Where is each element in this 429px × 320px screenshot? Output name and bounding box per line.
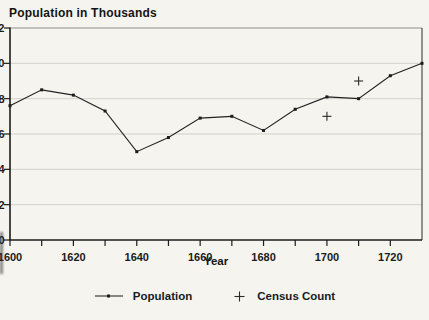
population-point bbox=[230, 115, 233, 118]
y-tick-label: 12 bbox=[0, 22, 5, 34]
y-tick-label: 2 bbox=[0, 199, 5, 211]
population-point bbox=[135, 150, 138, 153]
population-point bbox=[40, 88, 43, 91]
population-point bbox=[167, 136, 170, 139]
population-point bbox=[389, 74, 392, 77]
population-point bbox=[9, 104, 12, 107]
y-tick-label: 10 bbox=[0, 57, 5, 69]
legend-item-census-count: Census Count bbox=[234, 290, 335, 302]
y-tick-label: 8 bbox=[0, 93, 5, 105]
population-point bbox=[199, 117, 202, 120]
population-point bbox=[294, 108, 297, 111]
legend-label-population: Population bbox=[133, 290, 192, 302]
plot-area: 1600162016401660168017001720024681012 bbox=[0, 0, 429, 320]
population-line-icon bbox=[94, 292, 124, 300]
legend: Population Census Count bbox=[0, 290, 429, 302]
population-point bbox=[421, 62, 424, 65]
population-point bbox=[72, 94, 75, 97]
population-point bbox=[104, 110, 107, 113]
population-chart: Population in Thousands 1600162016401660… bbox=[0, 0, 429, 320]
y-tick-label: 6 bbox=[0, 128, 5, 140]
scan-edge-artifact bbox=[0, 232, 3, 274]
population-point bbox=[357, 97, 360, 100]
population-point bbox=[262, 129, 265, 132]
legend-label-census-count: Census Count bbox=[257, 290, 335, 302]
legend-item-population: Population bbox=[94, 290, 192, 302]
population-point bbox=[325, 95, 328, 98]
population-line bbox=[10, 63, 422, 151]
x-axis-label: Year bbox=[10, 255, 422, 267]
census-plus-icon bbox=[234, 291, 245, 302]
